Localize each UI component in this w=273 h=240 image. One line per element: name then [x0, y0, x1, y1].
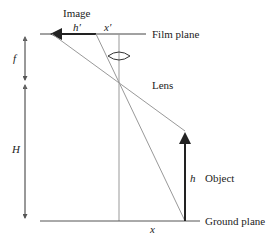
H-label: H [12, 144, 20, 155]
object-label: Object [205, 173, 234, 184]
lens-label: Lens [152, 80, 173, 91]
camera-geometry-diagram [0, 0, 273, 240]
h-label: h [190, 173, 196, 184]
f-label: f [13, 53, 16, 64]
h-prime-label: h′ [73, 22, 81, 33]
ground-plane-label: Ground plane [205, 216, 265, 227]
film-plane-label: Film plane [152, 29, 199, 40]
ray-bottom [96, 34, 185, 221]
x-label: x [150, 224, 155, 235]
x-prime-label: x′ [104, 22, 111, 33]
image-label: Image [63, 8, 90, 19]
